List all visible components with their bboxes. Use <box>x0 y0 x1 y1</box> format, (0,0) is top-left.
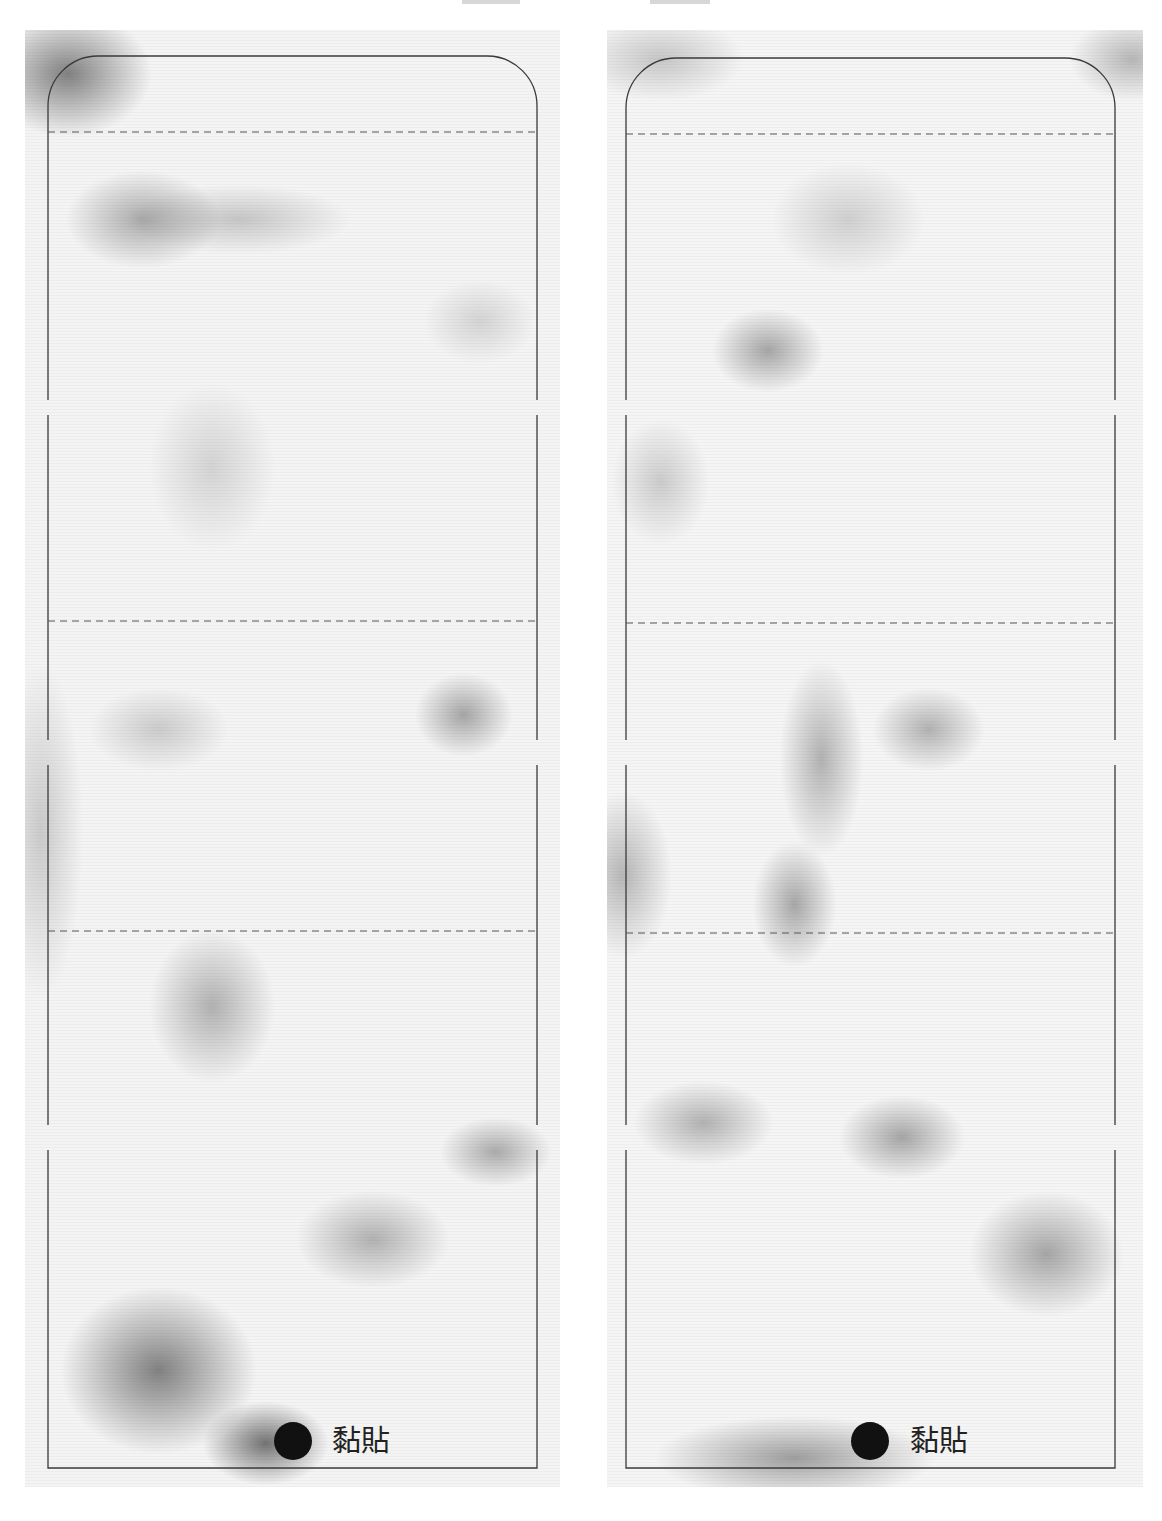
paste-label: 黏貼 <box>910 1427 968 1456</box>
paste-marker-icon <box>851 1422 889 1460</box>
